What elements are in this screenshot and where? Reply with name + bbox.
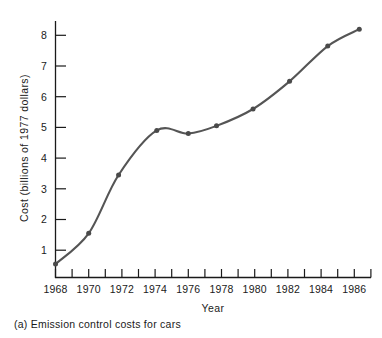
x-tick-label: 1976 <box>176 283 200 295</box>
x-tick-label: 1968 <box>43 283 67 295</box>
data-line-path <box>56 29 360 264</box>
x-tick-label: 1972 <box>110 283 134 295</box>
x-tick-label: 1984 <box>309 283 333 295</box>
y-tick-label: 5 <box>41 121 47 133</box>
data-point-markers <box>53 27 362 267</box>
data-point-marker <box>214 123 219 128</box>
x-tick-label: 1982 <box>276 283 300 295</box>
y-tick-label: 3 <box>41 183 47 195</box>
data-point-marker <box>357 27 362 32</box>
data-series-group <box>53 27 362 267</box>
x-tick-label: 1974 <box>143 283 167 295</box>
y-tick-label: 2 <box>41 213 47 225</box>
data-point-marker <box>287 79 292 84</box>
y-tick-label: 1 <box>41 244 47 256</box>
x-tick-label: 1978 <box>209 283 233 295</box>
data-point-marker <box>186 131 191 136</box>
line-chart-canvas: Cost (billions of 1977 dollars) 8 7 6 5 … <box>0 0 382 338</box>
x-axis-ticks <box>56 269 371 278</box>
x-tick-label: 1970 <box>77 283 101 295</box>
y-tick-label: 6 <box>41 91 47 103</box>
data-point-marker <box>251 106 256 111</box>
x-axis-tick-labels: 1968 1970 1972 1974 1976 1978 1980 1982 … <box>43 283 366 295</box>
y-axis-title: Cost (billions of 1977 dollars) <box>18 74 30 222</box>
figure-caption: (a) Emission control costs for cars <box>14 318 181 330</box>
data-point-marker <box>116 172 121 177</box>
data-point-marker <box>53 262 58 267</box>
y-axis-ticks <box>56 35 67 250</box>
y-axis-tick-labels: 8 7 6 5 4 3 2 1 <box>41 29 47 256</box>
x-tick-label: 1986 <box>342 283 366 295</box>
figure-emission-control-costs: Cost (billions of 1977 dollars) 8 7 6 5 … <box>0 0 382 338</box>
data-point-marker <box>154 128 159 133</box>
y-tick-label: 7 <box>41 60 47 72</box>
y-tick-label: 8 <box>41 29 47 41</box>
y-tick-label: 4 <box>41 152 47 164</box>
x-axis-title: Year <box>202 302 225 314</box>
x-tick-label: 1980 <box>243 283 267 295</box>
data-point-marker <box>86 231 91 236</box>
data-point-marker <box>325 44 330 49</box>
